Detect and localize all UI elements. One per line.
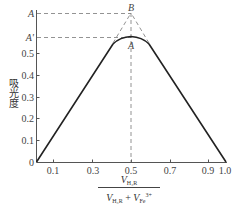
a-prime-axis-label: A' (25, 32, 35, 43)
svg-text:0.4: 0.4 (22, 70, 35, 81)
x-axis-label: VH₃R VH₃R + VFe3+ (98, 174, 160, 207)
svg-text:0: 0 (29, 157, 34, 168)
svg-text:0.2: 0.2 (22, 113, 35, 124)
svg-text:0.9: 0.9 (202, 165, 215, 176)
y-axis-label: 吸光度 (4, 78, 18, 108)
fraction-bar (98, 187, 160, 188)
svg-text:0.1: 0.1 (22, 135, 35, 146)
x-label-numerator: VH₃R (98, 174, 160, 186)
svg-text:0.7: 0.7 (164, 165, 177, 176)
svg-text:1.0: 1.0 (219, 165, 232, 176)
svg-text:0.5: 0.5 (22, 48, 35, 59)
svg-text:0.3: 0.3 (22, 92, 35, 103)
svg-text:0.1: 0.1 (47, 165, 60, 176)
b-point-label: B (128, 2, 134, 13)
x-label-denominator: VH₃R + VFe3+ (98, 189, 160, 207)
a-axis-label: A (27, 8, 35, 19)
a-peak-label: A (127, 40, 135, 51)
y-tick-labels: 0 0.1 0.2 0.3 0.4 0.5 A' A (22, 8, 35, 168)
guide-lines (37, 13, 149, 162)
